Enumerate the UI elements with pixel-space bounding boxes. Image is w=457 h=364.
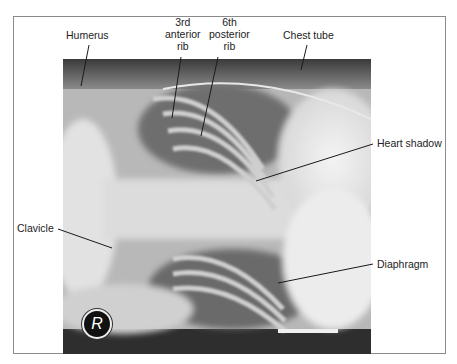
- right-side-marker: R: [82, 309, 112, 339]
- label-humerus: Humerus: [66, 29, 109, 41]
- label-heart-shadow: Heart shadow: [377, 137, 442, 149]
- label-6th-posterior-rib: 6th posterior rib: [209, 16, 250, 52]
- label-chest-tube: Chest tube: [283, 29, 334, 41]
- chest-xray-image: [63, 59, 371, 354]
- label-diaphragm: Diaphragm: [377, 258, 428, 270]
- label-3rd-anterior-rib: 3rd anterior rib: [165, 16, 201, 52]
- label-clavicle: Clavicle: [17, 222, 54, 234]
